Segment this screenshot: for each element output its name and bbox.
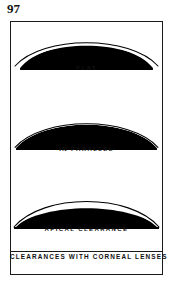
page-number: 97: [7, 2, 20, 16]
figure-page: 97 FLAT: [0, 0, 173, 289]
diagram-label-apical: APICAL CLEARANCE: [11, 226, 162, 232]
figure-frame: FLAT IN PARALLEL: [10, 21, 163, 275]
diagram-flat: FLAT: [11, 24, 162, 98]
diagram-label-flat: FLAT: [11, 65, 162, 71]
flat-cornea-lens-illustration: [11, 24, 162, 80]
diagram-parallel: IN PARALLEL: [11, 102, 162, 176]
figure-caption-band: CLEARANCES WITH CORNEAL LENSES: [10, 251, 163, 264]
figure-caption: CLEARANCES WITH CORNEAL LENSES: [10, 253, 163, 260]
diagram-apical: APICAL CLEARANCE: [11, 180, 162, 254]
diagram-label-parallel: IN PARALLEL: [11, 146, 162, 152]
figure-inner: FLAT IN PARALLEL: [11, 22, 162, 274]
